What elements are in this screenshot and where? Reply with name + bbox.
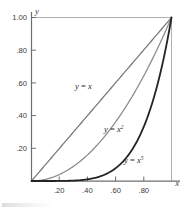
x-axis-label: x	[174, 178, 179, 188]
y-axis-label: y	[34, 6, 39, 16]
curve-label-operator: =	[128, 155, 137, 165]
curve-label-y-equals-x: y = x	[74, 81, 92, 91]
x-axis-tick-labels: .20 .40 .60 .80	[54, 186, 149, 195]
curve-label-operator: =	[108, 124, 117, 134]
chart-canvas: 1.00 .80 .60 .40 .20 .20 .40 .60 .80 y x…	[0, 0, 187, 208]
curve-label-exponent: 2	[121, 124, 124, 130]
y-tick-label: .40	[16, 111, 27, 120]
curve-label-operator: =	[79, 81, 88, 91]
x-tick-label: .40	[82, 186, 93, 195]
x-tick-label: .20	[54, 186, 65, 195]
y-tick-label: .60	[16, 79, 27, 88]
y-axis-tick-labels: 1.00 .80 .60 .40 .20	[12, 13, 27, 153]
y-axis-ticks	[32, 18, 37, 149]
curve-label-exponent: 5	[141, 155, 144, 161]
scan-artifact	[2, 203, 54, 207]
x-tick-label: .60	[110, 186, 121, 195]
curve-y-equals-x	[32, 18, 172, 182]
y-tick-label: .20	[16, 144, 27, 153]
x-tick-label: .80	[139, 186, 150, 195]
y-tick-label: .80	[16, 46, 27, 55]
figure-container: 1.00 .80 .60 .40 .20 .20 .40 .60 .80 y x…	[0, 0, 187, 208]
curve-label-variable: x	[87, 81, 92, 91]
curve-label-y-equals-x-squared: y = x2	[103, 124, 124, 134]
y-tick-label: 1.00	[12, 13, 27, 22]
curve-label-y-equals-x-fifth: y = x5	[123, 155, 144, 165]
